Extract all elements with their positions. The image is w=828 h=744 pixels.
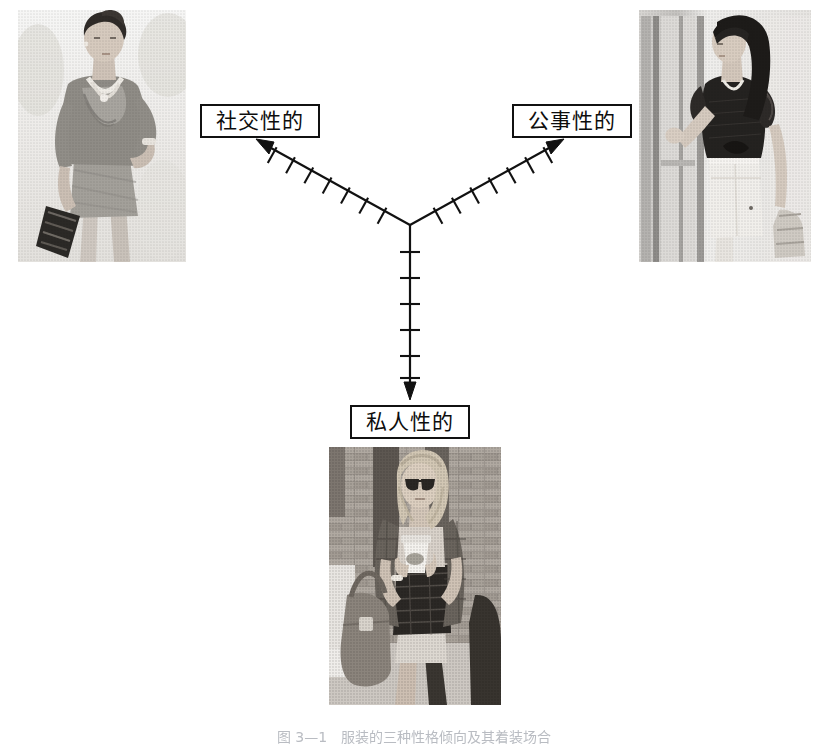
photo-private: [329, 447, 501, 705]
label-social-text: 社交性的: [216, 111, 304, 132]
figure-page: 社交性的 公事性的 私人性的 图 3—1 服装的三种性格倾向及其着装场合: [0, 0, 828, 744]
figure-caption: 图 3—1 服装的三种性格倾向及其着装场合: [0, 726, 828, 744]
label-box-private: 私人性的: [350, 405, 470, 439]
photo-business: [639, 10, 811, 262]
label-private-text: 私人性的: [366, 412, 454, 433]
label-business-text: 公事性的: [528, 111, 616, 132]
label-box-social: 社交性的: [200, 104, 320, 138]
photo-social: [18, 10, 186, 262]
axis-social: [256, 139, 410, 225]
axis-business: [410, 139, 564, 225]
label-box-business: 公事性的: [512, 104, 632, 138]
axis-private: [400, 225, 420, 400]
